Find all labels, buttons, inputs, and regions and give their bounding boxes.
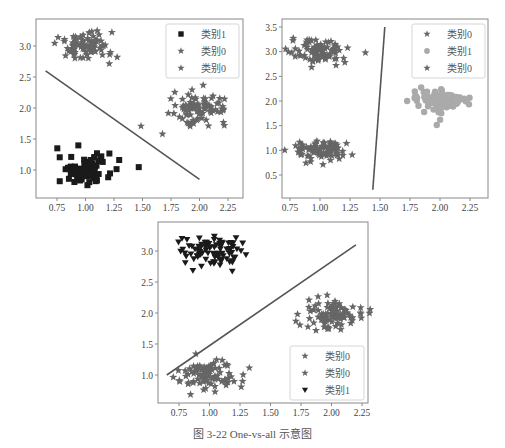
legend-label: 类别1 xyxy=(447,45,472,57)
x-tick-label: 1.25 xyxy=(342,203,359,213)
chart-3: 0.751.001.251.501.752.002.251.01.52.02.5… xyxy=(141,222,374,418)
y-tick-label: 2.5 xyxy=(19,73,31,83)
x-tick-label: 0.75 xyxy=(171,408,188,418)
legend-label: 类别1 xyxy=(325,384,350,396)
figure-caption: 图 3-22 One-vs-all 示意图 xyxy=(0,425,505,441)
legend-label: 类别0 xyxy=(447,28,472,40)
y-tick-label: 3.0 xyxy=(19,42,31,52)
legend-label: 类别0 xyxy=(201,45,226,57)
x-tick-label: 1.00 xyxy=(77,203,94,213)
legend: 类别0类别1类别0 xyxy=(412,24,485,78)
x-tick-label: 1.25 xyxy=(232,408,249,418)
x-tick-label: 1.75 xyxy=(293,408,310,418)
legend-label: 类别0 xyxy=(201,62,226,74)
y-tick-label: 0.5 xyxy=(265,171,277,181)
y-tick-label: 3.0 xyxy=(265,47,277,57)
chart-1: 0.751.001.251.501.752.002.251.01.52.02.5… xyxy=(19,19,243,213)
x-tick-label: 1.50 xyxy=(372,203,389,213)
x-tick-label: 1.00 xyxy=(201,408,218,418)
y-tick-label: 1.5 xyxy=(19,135,31,145)
x-tick-label: 1.75 xyxy=(402,203,419,213)
decision-boundary-line xyxy=(46,71,200,180)
legend: 类别1类别0类别0 xyxy=(166,24,239,78)
x-tick-label: 2.00 xyxy=(432,203,449,213)
y-tick-label: 3.5 xyxy=(265,23,277,33)
y-tick-label: 1.0 xyxy=(265,146,277,156)
x-tick-label: 0.75 xyxy=(49,203,66,213)
y-tick-label: 2.5 xyxy=(265,72,277,82)
y-tick-label: 2.0 xyxy=(141,309,153,319)
y-tick-label: 2.0 xyxy=(19,104,31,114)
chart-2: 0.751.001.251.501.752.002.250.51.01.52.0… xyxy=(265,19,488,213)
y-tick-label: 1.5 xyxy=(265,121,277,131)
x-tick-label: 2.25 xyxy=(220,203,237,213)
x-tick-label: 1.00 xyxy=(312,203,329,213)
y-tick-label: 1.0 xyxy=(141,371,153,381)
y-tick-label: 2.5 xyxy=(141,278,153,288)
y-tick-label: 2.0 xyxy=(265,97,277,107)
x-tick-label: 1.50 xyxy=(262,408,279,418)
legend-label: 类别1 xyxy=(201,28,226,40)
y-tick-label: 1.0 xyxy=(19,166,31,176)
x-tick-label: 2.00 xyxy=(191,203,208,213)
x-tick-label: 2.25 xyxy=(354,408,371,418)
x-tick-label: 1.25 xyxy=(106,203,123,213)
x-tick-label: 0.75 xyxy=(282,203,299,213)
x-tick-label: 1.50 xyxy=(134,203,151,213)
x-tick-label: 1.75 xyxy=(163,203,180,213)
x-tick-label: 2.25 xyxy=(462,203,479,213)
x-tick-label: 2.00 xyxy=(323,408,340,418)
y-tick-label: 3.0 xyxy=(141,247,153,257)
legend-label: 类别0 xyxy=(325,350,350,362)
figure: 0.751.001.251.501.752.002.251.01.52.02.5… xyxy=(0,0,505,448)
decision-boundary-line xyxy=(373,27,385,190)
y-tick-label: 1.5 xyxy=(141,340,153,350)
legend-label: 类别0 xyxy=(325,367,350,379)
legend-label: 类别0 xyxy=(447,62,472,74)
legend: 类别0类别0类别1 xyxy=(290,346,364,400)
